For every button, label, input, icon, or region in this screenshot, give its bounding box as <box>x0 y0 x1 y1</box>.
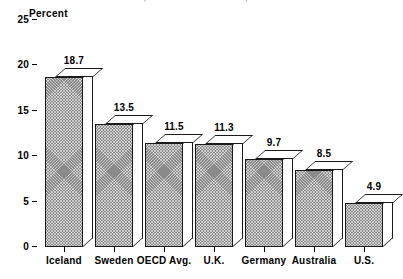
bar-group <box>195 20 243 247</box>
bar-value-label: 11.3 <box>198 122 250 133</box>
bar-value-label: 8.5 <box>298 148 350 159</box>
bar-column[interactable] <box>245 159 293 247</box>
bar-group <box>295 20 343 247</box>
bar-value-label: 13.5 <box>98 102 150 113</box>
y-axis-tick-label: 0 <box>0 241 29 253</box>
x-axis-tick-mark <box>364 247 365 252</box>
bar-column[interactable] <box>95 124 143 247</box>
bar-column[interactable] <box>45 77 93 247</box>
bar-side-face <box>233 135 243 247</box>
bar-side-face <box>183 134 193 247</box>
bar-front-face <box>345 203 383 247</box>
bar-column[interactable] <box>345 203 393 247</box>
bar-side-face <box>83 68 93 247</box>
y-axis-tick-label: 25 <box>0 14 29 26</box>
chart-title-cropped: OECD, Health Data Database, 1997 <box>0 0 388 2</box>
x-axis-tick-mark <box>214 247 215 252</box>
bar-front-face <box>295 170 333 247</box>
y-axis-tick-label: 15 <box>0 105 29 117</box>
y-axis-tick-label: 20 <box>0 59 29 71</box>
bar-side-face <box>133 115 143 247</box>
bar-side-face <box>333 161 343 247</box>
bar-value-label: 18.7 <box>48 55 100 66</box>
bar-value-label: 9.7 <box>248 137 300 148</box>
bar-group <box>245 20 293 247</box>
bar-front-face <box>195 144 233 247</box>
bar-front-face <box>45 77 83 247</box>
y-axis-tick-label: 5 <box>0 196 29 208</box>
bar-column[interactable] <box>145 143 193 247</box>
bar-group <box>345 20 393 247</box>
y-axis-tick: 15 <box>0 105 38 117</box>
x-axis-tick-mark <box>64 247 65 252</box>
bar-column[interactable] <box>295 170 343 247</box>
bar-front-face <box>145 143 183 247</box>
y-axis-tick: 5 <box>0 196 38 208</box>
bar-top-face <box>355 194 403 203</box>
x-axis-tick-mark <box>114 247 115 252</box>
bar-value-label: 11.5 <box>148 121 200 132</box>
x-axis-tick-mark <box>264 247 265 252</box>
bar-group <box>145 20 193 247</box>
plot-area <box>34 20 386 247</box>
x-axis-tick-mark <box>164 247 165 252</box>
bar-group <box>95 20 143 247</box>
bar-group <box>45 20 93 247</box>
bar-front-face <box>95 124 133 247</box>
y-axis-tick: 0 <box>0 241 38 253</box>
bar-front-face <box>245 159 283 247</box>
y-axis-tick: 10 <box>0 150 38 162</box>
bar-value-label: 4.9 <box>348 181 400 192</box>
x-axis-tick-mark <box>314 247 315 252</box>
bar-column[interactable] <box>195 144 243 247</box>
x-axis-category-label: U.S. <box>326 255 402 266</box>
y-axis-tick: 20 <box>0 59 38 71</box>
y-axis-tick-label: 10 <box>0 150 29 162</box>
y-axis-tick: 25 <box>0 14 38 26</box>
bar-side-face <box>283 150 293 247</box>
